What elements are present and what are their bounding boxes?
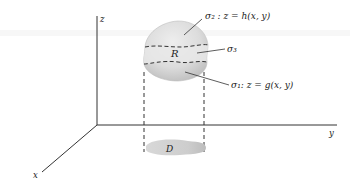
region-r-label: R — [170, 48, 179, 59]
sigma3-label: σ₃ — [227, 44, 237, 54]
domain-d-label: D — [165, 144, 173, 154]
z-axis-label: z — [99, 14, 105, 24]
x-axis — [42, 125, 97, 172]
surface-region-diagram: z y x R D σ₂ : z = h(x, y) σ₃ σ₁: z = g(… — [0, 0, 350, 189]
y-axis-label: y — [328, 128, 334, 138]
domain-d-shadow — [146, 140, 206, 156]
sigma2-label: σ₂ : z = h(x, y) — [205, 11, 271, 21]
sigma1-label: σ₁: z = g(x, y) — [231, 80, 294, 90]
x-axis-label: x — [33, 170, 38, 180]
